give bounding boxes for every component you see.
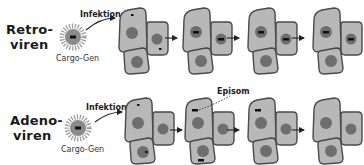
adeno-stage1-cells bbox=[125, 98, 174, 164]
adeno-cargo-gene-icon bbox=[75, 127, 81, 130]
adeno-infection-arrow-icon bbox=[95, 112, 122, 122]
retro-cargo-gene-icon bbox=[70, 36, 76, 39]
retro-stage3-cells bbox=[248, 8, 297, 74]
adeno-stage4-cells bbox=[313, 98, 362, 164]
retro-virus-particle bbox=[62, 26, 84, 48]
adeno-stage3-cells bbox=[248, 98, 297, 164]
episome-icon bbox=[192, 109, 198, 112]
adeno-stage2-cells bbox=[185, 98, 234, 164]
retro-stage4-cells bbox=[313, 8, 362, 74]
adeno-virus-particle bbox=[67, 117, 89, 139]
retro-infection-arrow-icon bbox=[86, 18, 115, 30]
retro-stage2-cells bbox=[183, 8, 232, 74]
diagram-canvas bbox=[0, 0, 364, 165]
retro-stage1-cells bbox=[119, 8, 168, 74]
